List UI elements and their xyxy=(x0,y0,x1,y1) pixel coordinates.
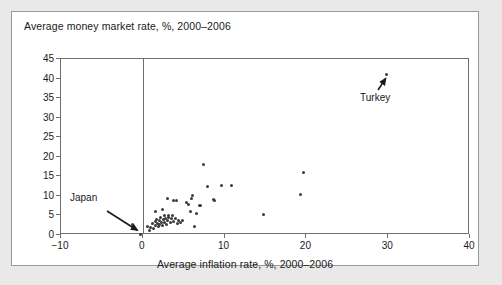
x-tick-label: −10 xyxy=(52,240,69,251)
scatter-point xyxy=(199,204,202,207)
y-tick-label: 35 xyxy=(14,92,54,103)
scatter-point xyxy=(190,197,193,200)
scatter-point xyxy=(165,223,168,226)
scatter-point xyxy=(262,213,265,216)
x-tick-mark xyxy=(60,234,61,238)
x-tick-label: 40 xyxy=(463,240,474,251)
x-tick-mark xyxy=(305,234,306,238)
scatter-point xyxy=(230,184,233,187)
chart-page: Average money market rate, %, 2000–2006 … xyxy=(0,0,502,285)
scatter-point xyxy=(299,193,302,196)
y-tick-label: 40 xyxy=(14,72,54,83)
chart-title: Average money market rate, %, 2000–2006 xyxy=(24,20,231,32)
x-tick-mark xyxy=(469,234,470,238)
scatter-point xyxy=(213,199,216,202)
annotation-label-japan: Japan xyxy=(70,192,97,203)
x-axis-label: Average inflation rate, %, 2000–2006 xyxy=(12,258,478,270)
scatter-point xyxy=(206,185,209,188)
scatter-point xyxy=(161,208,164,211)
y-tick-label: 10 xyxy=(14,189,54,200)
zero-reference-line xyxy=(143,59,144,233)
scatter-point xyxy=(202,163,205,166)
scatter-point xyxy=(154,210,157,213)
x-tick-label: 20 xyxy=(300,240,311,251)
y-tick-label: 25 xyxy=(14,131,54,142)
scatter-point xyxy=(195,212,198,215)
x-tick-mark xyxy=(387,234,388,238)
y-tick-label: 5 xyxy=(14,209,54,220)
x-tick-label: 10 xyxy=(218,240,229,251)
figure-panel: Average money market rate, %, 2000–2006 … xyxy=(11,11,479,266)
y-tick-label: 30 xyxy=(14,111,54,122)
scatter-point xyxy=(139,233,142,236)
x-tick-mark xyxy=(224,234,225,238)
scatter-point xyxy=(302,171,305,174)
scatter-point xyxy=(220,184,223,187)
x-tick-label: 0 xyxy=(139,240,145,251)
x-tick-label: 30 xyxy=(382,240,393,251)
scatter-point xyxy=(166,197,169,200)
x-tick-mark xyxy=(142,234,143,238)
scatter-point xyxy=(175,199,178,202)
y-tick-label: 0 xyxy=(14,229,54,240)
y-tick-label: 20 xyxy=(14,150,54,161)
plot-area xyxy=(60,58,469,234)
y-tick-label: 45 xyxy=(14,53,54,64)
scatter-point xyxy=(161,224,164,227)
scatter-point xyxy=(148,229,151,232)
scatter-point xyxy=(171,214,174,217)
scatter-point xyxy=(385,73,388,76)
scatter-point xyxy=(152,227,155,230)
y-tick-label: 15 xyxy=(14,170,54,181)
scatter-point xyxy=(191,194,194,197)
scatter-point xyxy=(172,220,175,223)
scatter-point xyxy=(131,223,134,226)
scatter-point xyxy=(187,203,190,206)
annotation-label-turkey: Turkey xyxy=(360,92,390,103)
scatter-point xyxy=(193,225,196,228)
scatter-point xyxy=(189,210,192,213)
